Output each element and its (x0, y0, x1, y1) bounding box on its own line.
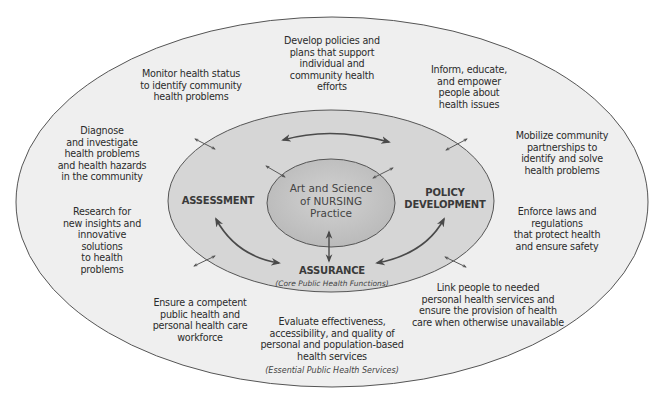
develop-line-3: individual and (270, 58, 394, 70)
research-line-5: to health (52, 252, 152, 264)
core-function-assurance: ASSURANCE (284, 265, 380, 277)
mobilize-line-1: Mobilize community (500, 130, 624, 142)
diagnose-line-2: and investigate (48, 137, 156, 149)
essential-services-caption: (Essential Public Health Services) (258, 366, 406, 375)
service-research: Research for new insights and innovative… (52, 206, 152, 276)
research-line-3: innovative (52, 229, 152, 241)
center-label-nursing-practice: Art and Science of NURSING Practice (276, 182, 386, 220)
service-evaluate-effectiveness: Evaluate effectiveness, accessibility, a… (254, 316, 410, 362)
mobilize-line-3: identify and solve (500, 153, 624, 165)
enforce-line-4: and ensure safety (502, 241, 612, 253)
service-inform-educate: Inform, educate, and empower people abou… (424, 64, 514, 110)
workforce-line-2: public health and (140, 309, 260, 321)
service-diagnose-investigate: Diagnose and investigate health problems… (48, 125, 156, 183)
service-link-people: Link people to needed personal health se… (408, 282, 568, 328)
diagnose-line-3: health problems (48, 148, 156, 160)
evaluate-line-3: personal and population-based (254, 339, 410, 351)
link-line-1: Link people to needed (408, 282, 568, 294)
service-mobilize-partnerships: Mobilize community partnerships to ident… (500, 130, 624, 176)
develop-line-4: community health (270, 70, 394, 82)
center-line-2: of NURSING (276, 195, 386, 208)
inform-line-4: health issues (424, 99, 514, 111)
service-develop-policies: Develop policies and plans that support … (270, 35, 394, 93)
core-functions-caption: (Core Public Health Functions) (265, 279, 399, 288)
link-line-3: ensure the provision of health (408, 305, 568, 317)
service-enforce-laws: Enforce laws and regulations that protec… (502, 206, 612, 252)
develop-line-2: plans that support (270, 47, 394, 59)
monitor-line-3: health problems (136, 91, 246, 103)
service-ensure-workforce: Ensure a competent public health and per… (140, 297, 260, 343)
monitor-line-1: Monitor health status (136, 68, 246, 80)
diagnose-line-5: in the community (48, 171, 156, 183)
inform-line-3: people about (424, 87, 514, 99)
evaluate-line-4: health services (254, 351, 410, 363)
workforce-line-1: Ensure a competent (140, 297, 260, 309)
inform-line-1: Inform, educate, (424, 64, 514, 76)
evaluate-line-1: Evaluate effectiveness, (254, 316, 410, 328)
workforce-line-3: personal health care (140, 320, 260, 332)
development-label: DEVELOPMENT (400, 199, 490, 211)
evaluate-line-2: accessibility, and quality of (254, 328, 410, 340)
research-line-2: new insights and (52, 218, 152, 230)
diagnose-line-4: and health hazards (48, 160, 156, 172)
workforce-line-4: workforce (140, 332, 260, 344)
diagnose-line-1: Diagnose (48, 125, 156, 137)
research-line-6: problems (52, 264, 152, 276)
center-line-3: Practice (276, 207, 386, 220)
mobilize-line-4: health problems (500, 165, 624, 177)
develop-line-1: Develop policies and (270, 35, 394, 47)
develop-line-5: efforts (270, 81, 394, 93)
enforce-line-3: that protect health (502, 229, 612, 241)
research-line-4: solutions (52, 241, 152, 253)
link-line-2: personal health services and (408, 294, 568, 306)
monitor-line-2: to identify community (136, 80, 246, 92)
policy-label: POLICY (400, 187, 490, 199)
center-line-1: Art and Science (276, 182, 386, 195)
link-line-4: care when otherwise unavailable (408, 317, 568, 329)
mobilize-line-2: partnerships to (500, 142, 624, 154)
core-function-assessment: ASSESSMENT (178, 195, 258, 207)
enforce-line-1: Enforce laws and (502, 206, 612, 218)
enforce-line-2: regulations (502, 218, 612, 230)
service-monitor-health-status: Monitor health status to identify commun… (136, 68, 246, 103)
assurance-label: ASSURANCE (284, 265, 380, 277)
core-function-policy-development: POLICY DEVELOPMENT (400, 187, 490, 211)
inform-line-2: and empower (424, 76, 514, 88)
assessment-label: ASSESSMENT (178, 195, 258, 207)
research-line-1: Research for (52, 206, 152, 218)
